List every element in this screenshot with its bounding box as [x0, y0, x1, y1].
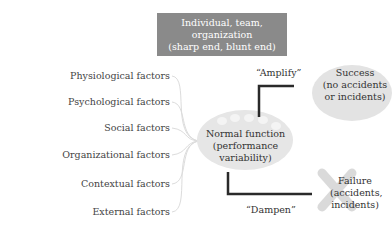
- center-line-3: variability): [203, 152, 288, 164]
- failure-line-1: Failure: [330, 175, 380, 187]
- failure-line-2: (accidents,: [330, 187, 380, 199]
- actor-line-3: (sharp end, blunt end): [168, 41, 276, 53]
- actor-line-1: Individual, team,: [168, 17, 276, 29]
- factor-organizational: Organizational factors: [62, 149, 170, 160]
- success-node: Success (no accidents or incidents): [320, 67, 390, 103]
- factor-physiological: Physiological factors: [70, 70, 170, 81]
- center-line-1: Normal function: [203, 128, 288, 140]
- fan-lines: [172, 76, 198, 212]
- failure-node: Failure (accidents, incidents): [330, 175, 380, 211]
- factor-external: External factors: [92, 206, 170, 217]
- success-line-2: (no accidents: [320, 79, 390, 91]
- dampen-arrow: [228, 172, 312, 194]
- amplify-label: “Amplify”: [256, 67, 301, 78]
- factor-psychological: Psychological factors: [68, 96, 170, 107]
- center-line-2: (performance: [203, 140, 288, 152]
- success-line-1: Success: [320, 67, 390, 79]
- dampen-label: “Dampen”: [246, 204, 296, 215]
- normal-function-node: Normal function (performance variability…: [203, 128, 288, 164]
- actor-line-2: organization: [168, 29, 276, 41]
- factor-social: Social factors: [104, 122, 170, 133]
- factor-contextual: Contextual factors: [81, 178, 170, 189]
- amplify-arrow: [259, 86, 294, 117]
- success-line-3: or incidents): [320, 91, 390, 103]
- failure-line-3: incidents): [330, 199, 380, 211]
- actor-box: Individual, team, organization (sharp en…: [157, 13, 287, 56]
